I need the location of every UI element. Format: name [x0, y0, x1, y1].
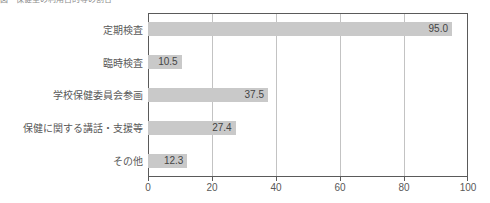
x-axis-tick-labels: 020406080100 [0, 182, 490, 198]
bar: 37.5 [148, 88, 268, 102]
category-label: 定期検査 [0, 13, 143, 46]
category-label: 学校保健委員会参画 [0, 79, 143, 112]
x-tick-label-0: 0 [145, 182, 151, 193]
x-tick-40 [276, 177, 277, 181]
x-tick-label-20: 20 [206, 182, 217, 193]
horizontal-bar-chart: 図 保健室の利用目的等の割合 定期検査95.0臨時検査10.5学校保健委員会参画… [0, 0, 490, 203]
x-tick-60 [340, 177, 341, 181]
bar-row: 10.5 [148, 46, 468, 79]
figure-caption: 図 保健室の利用目的等の割合 [0, 0, 250, 7]
bar: 95.0 [148, 22, 452, 36]
bar-row: 95.0 [148, 13, 468, 46]
category-label: 保健に関する講話・支援等 [0, 111, 143, 144]
x-tick-label-80: 80 [398, 182, 409, 193]
x-tick-100 [467, 177, 468, 181]
bar-value-label: 95.0 [429, 24, 448, 34]
bar-row: 12.3 [148, 144, 468, 177]
bar-row: 27.4 [148, 111, 468, 144]
bar-row: 37.5 [148, 79, 468, 112]
x-tick-label-60: 60 [334, 182, 345, 193]
x-tick-80 [404, 177, 405, 181]
x-tick-label-100: 100 [460, 182, 477, 193]
bar: 27.4 [148, 121, 236, 135]
x-tick-20 [212, 177, 213, 181]
bar-value-label: 12.3 [164, 156, 183, 166]
category-label: 臨時検査 [0, 46, 143, 79]
category-label: その他 [0, 144, 143, 177]
x-tick-label-40: 40 [270, 182, 281, 193]
x-tick-0 [148, 177, 149, 181]
bar-value-label: 27.4 [212, 123, 231, 133]
bar-value-label: 10.5 [158, 57, 177, 67]
bar: 12.3 [148, 154, 187, 168]
figure-caption-text: 図 保健室の利用目的等の割合 [0, 0, 112, 4]
bar: 10.5 [148, 55, 182, 69]
bar-value-label: 37.5 [245, 90, 264, 100]
